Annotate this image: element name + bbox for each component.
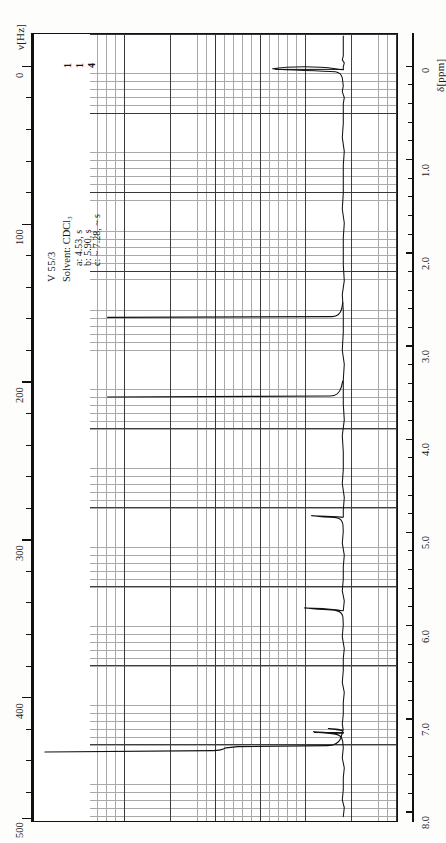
integral-step-b bbox=[108, 381, 343, 397]
ppm-minor-tick bbox=[408, 234, 413, 235]
ppm-axis-label: δ[ppm] bbox=[434, 59, 446, 92]
ppm-minor-tick bbox=[408, 662, 413, 663]
hz-tick-label-500: 500 bbox=[14, 822, 25, 838]
ppm-minor-tick bbox=[408, 103, 413, 104]
ppm-minor-tick bbox=[408, 737, 413, 738]
hz-axis-label: ν[Hz] bbox=[14, 24, 26, 50]
hz-minor-tick bbox=[26, 634, 32, 635]
plot-area: V 55/3 Solvent: CDCl₃ a: 4.53, s b: 5.90… bbox=[33, 33, 398, 822]
hz-tick-label-300: 300 bbox=[14, 545, 25, 561]
hz-tick-label-0: 0 bbox=[14, 73, 25, 78]
ppm-minor-tick bbox=[408, 290, 413, 291]
ppm-minor-tick bbox=[408, 420, 413, 421]
hz-minor-tick bbox=[26, 760, 32, 761]
hz-minor-tick bbox=[26, 508, 32, 509]
hz-minor-tick bbox=[26, 255, 32, 256]
ppm-minor-tick bbox=[408, 84, 413, 85]
ppm-tick-1 bbox=[406, 159, 414, 160]
ppm-minor-tick bbox=[408, 457, 413, 458]
hz-tick-400 bbox=[22, 697, 32, 698]
ppm-minor-tick bbox=[408, 681, 413, 682]
ppm-minor-tick bbox=[408, 569, 413, 570]
ppm-minor-tick bbox=[408, 401, 413, 402]
hz-minor-tick bbox=[26, 445, 32, 446]
ppm-minor-tick bbox=[408, 588, 413, 589]
hz-minor-tick bbox=[26, 350, 32, 351]
hz-minor-tick bbox=[26, 161, 32, 162]
hz-minor-tick bbox=[26, 129, 32, 130]
ppm-tick-3 bbox=[406, 345, 414, 346]
ppm-minor-tick bbox=[408, 476, 413, 477]
hz-tick-0 bbox=[22, 66, 32, 67]
hz-minor-tick bbox=[26, 729, 32, 730]
ppm-axis-line bbox=[412, 33, 414, 822]
hz-tick-100 bbox=[22, 224, 32, 225]
hz-tick-300 bbox=[22, 539, 32, 540]
ppm-tick-2 bbox=[406, 252, 414, 253]
ppm-tick-label-7: 7.0 bbox=[420, 723, 431, 736]
hz-tick-label-100: 100 bbox=[14, 229, 25, 245]
ppm-tick-8 bbox=[406, 811, 414, 812]
ppm-tick-label-3: 3.0 bbox=[420, 350, 431, 363]
ppm-minor-tick bbox=[408, 178, 413, 179]
ppm-tick-5 bbox=[406, 532, 414, 533]
hz-minor-tick bbox=[26, 192, 32, 193]
ppm-minor-tick bbox=[408, 644, 413, 645]
ppm-minor-tick bbox=[408, 327, 413, 328]
integral-step-a bbox=[108, 303, 343, 318]
ppm-tick-7 bbox=[406, 718, 414, 719]
hz-tick-500 bbox=[22, 818, 32, 819]
hz-minor-tick bbox=[26, 571, 32, 572]
ppm-minor-tick bbox=[408, 196, 413, 197]
ppm-minor-tick bbox=[408, 364, 413, 365]
ppm-tick-label-6: 6.0 bbox=[420, 630, 431, 643]
ppm-minor-tick bbox=[408, 140, 413, 141]
hz-minor-tick bbox=[26, 413, 32, 414]
ppm-minor-tick bbox=[408, 495, 413, 496]
ppm-tick-label-8: 8.0 bbox=[420, 816, 431, 829]
ppm-tick-6 bbox=[406, 625, 414, 626]
ppm-minor-tick bbox=[408, 383, 413, 384]
ppm-tick-0 bbox=[406, 66, 414, 67]
ppm-tick-label-2: 2.0 bbox=[420, 257, 431, 270]
ppm-minor-tick bbox=[408, 513, 413, 514]
ppm-tick-label-4: 4.0 bbox=[420, 443, 431, 456]
hz-tick-200 bbox=[22, 381, 32, 382]
ppm-minor-tick bbox=[408, 606, 413, 607]
ppm-minor-tick bbox=[408, 774, 413, 775]
ppm-minor-tick bbox=[408, 215, 413, 216]
ppm-tick-label-5: 5.0 bbox=[420, 536, 431, 549]
nmr-spectrum-page: V 55/3 Solvent: CDCl₃ a: 4.53, s b: 5.90… bbox=[0, 0, 446, 843]
hz-tick-label-400: 400 bbox=[14, 703, 25, 719]
trace-path bbox=[273, 36, 345, 817]
hz-tick-label-200: 200 bbox=[14, 387, 25, 403]
hz-minor-tick bbox=[26, 318, 32, 319]
ppm-minor-tick bbox=[408, 271, 413, 272]
ppm-minor-tick bbox=[408, 756, 413, 757]
hz-minor-tick bbox=[26, 287, 32, 288]
ppm-minor-tick bbox=[408, 793, 413, 794]
hz-minor-tick bbox=[26, 97, 32, 98]
ppm-minor-tick bbox=[408, 122, 413, 123]
ppm-tick-label-0: 0 bbox=[420, 68, 431, 73]
hz-minor-tick bbox=[26, 476, 32, 477]
hz-axis-line bbox=[31, 33, 33, 822]
hz-minor-tick bbox=[26, 602, 32, 603]
spectrum-trace bbox=[34, 34, 397, 819]
ppm-minor-tick bbox=[408, 700, 413, 701]
hz-minor-tick bbox=[26, 792, 32, 793]
integral-step-c bbox=[45, 732, 343, 752]
ppm-minor-tick bbox=[408, 550, 413, 551]
ppm-tick-label-1: 1.0 bbox=[420, 164, 431, 177]
hz-minor-tick bbox=[26, 666, 32, 667]
ppm-minor-tick bbox=[408, 308, 413, 309]
ppm-tick-4 bbox=[406, 439, 414, 440]
